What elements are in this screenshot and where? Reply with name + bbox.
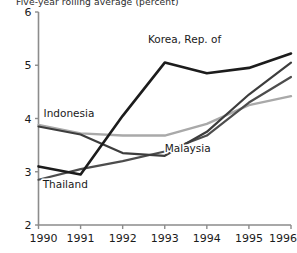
y-axis-tick-label: 2 (25, 219, 32, 232)
line-chart-plot: 234561990199119921993199419951996Korea, … (0, 0, 297, 253)
chart-figure: Five-year rolling average (percent) 2345… (0, 0, 297, 253)
y-axis-tick-label: 3 (25, 166, 32, 179)
x-axis-tick-label: 1993 (151, 232, 179, 245)
x-axis-tick-label: 1994 (193, 232, 221, 245)
x-axis-tick-label: 1990 (30, 232, 58, 245)
x-axis-tick-label: 1992 (109, 232, 137, 245)
x-axis-tick-label: 1995 (235, 232, 263, 245)
series-label-malaysia: Malaysia (165, 142, 211, 154)
x-axis-tick-label: 1991 (67, 232, 95, 245)
x-axis-tick-label: 1996 (269, 232, 297, 245)
series-label-indonesia: Indonesia (44, 107, 95, 119)
series-label-thailand: Thailand (42, 178, 88, 190)
y-axis-tick-label: 4 (25, 113, 32, 126)
y-axis-tick-label: 6 (25, 6, 32, 19)
series-label-korea-rep-of: Korea, Rep. of (148, 33, 221, 45)
y-axis-tick-label: 5 (25, 59, 32, 72)
